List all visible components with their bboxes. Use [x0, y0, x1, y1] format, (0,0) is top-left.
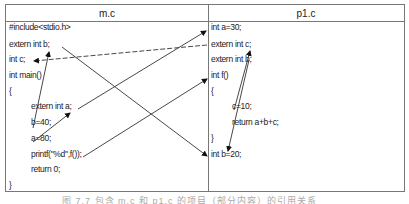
reference-arrow: [234, 51, 250, 110]
reference-arrow: [33, 52, 49, 128]
reference-arrow: [83, 79, 207, 157]
reference-arrow: [78, 31, 206, 109]
reference-arrow: [33, 113, 70, 142]
reference-arrows: [0, 0, 409, 204]
reference-arrow: [228, 60, 249, 151]
figure-caption: 图 7.7 包含 m.c 和 p1.c 的项目（部分内容）的引用关系: [62, 194, 317, 204]
reference-arrow: [62, 47, 207, 156]
reference-arrow: [34, 45, 207, 61]
